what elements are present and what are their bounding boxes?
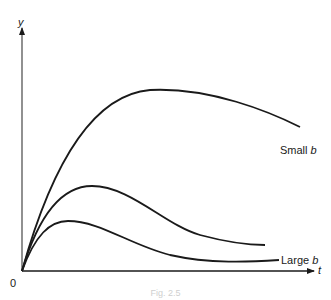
curve-intermediate-b [22,186,265,271]
y-axis-label: y [18,16,24,28]
curve-large-b [22,221,279,271]
curve-small-b [22,90,300,271]
large-b-label: Large b [281,254,318,266]
figure-caption: Fig. 2.5 [0,288,331,298]
x-axis-label: t [318,264,321,276]
small-b-label: Small b [280,144,317,156]
